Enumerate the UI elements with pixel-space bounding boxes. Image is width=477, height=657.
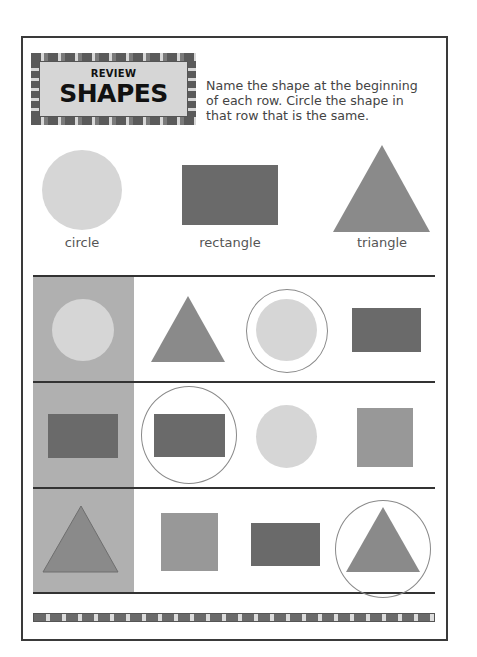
row3-option-triangle[interactable] xyxy=(0,0,477,657)
decorative-border-strip xyxy=(33,613,435,622)
